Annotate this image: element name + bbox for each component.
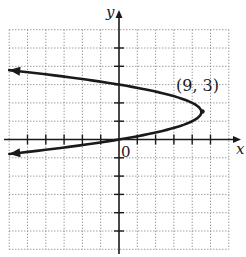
origin-label: 0 <box>121 143 131 161</box>
y-axis-arrow-icon <box>116 10 123 18</box>
vertex-point <box>200 109 204 113</box>
x-axis-label: x <box>236 140 245 158</box>
axes <box>4 10 241 254</box>
parabola-graph: y x 0 (9, 3) <box>0 0 246 257</box>
y-axis-label: y <box>105 3 115 21</box>
parabola-curve <box>9 70 201 154</box>
vertex-label: (9, 3) <box>176 76 219 95</box>
